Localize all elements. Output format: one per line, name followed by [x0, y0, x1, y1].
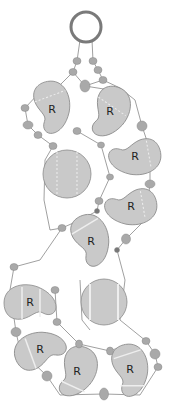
- bead-label: R: [48, 103, 56, 116]
- paisley-bead: R: [109, 341, 152, 398]
- bead-label: R: [106, 105, 114, 118]
- bead-label: R: [126, 363, 134, 376]
- paisley-bead: R: [107, 136, 164, 179]
- bead-label: R: [87, 235, 95, 248]
- bead-label: R: [131, 150, 139, 163]
- paisley-bead: R: [4, 285, 56, 320]
- bead-label: R: [26, 296, 34, 309]
- paisley-bead: R: [103, 186, 160, 229]
- disc-bead: [81, 279, 127, 325]
- paisley-bead: R: [86, 82, 136, 143]
- beading-diagram: R R R R R R R: [0, 0, 173, 419]
- bead-label: R: [127, 200, 135, 213]
- bead-label: R: [73, 365, 81, 378]
- bead-label: R: [36, 343, 44, 356]
- ring: [71, 12, 101, 42]
- paisley-bead: R: [67, 209, 117, 270]
- disc-bead: [43, 150, 91, 198]
- paisley-bead: R: [31, 78, 74, 135]
